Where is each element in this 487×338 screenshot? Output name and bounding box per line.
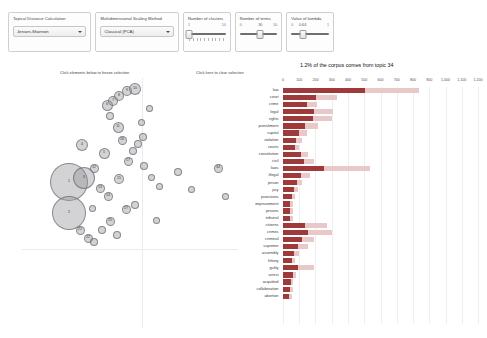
topic-bubble-40[interactable]: 40: [153, 217, 160, 224]
barchart-row[interactable]: punishment: [242, 122, 478, 129]
term-label[interactable]: supreme: [263, 243, 278, 248]
topic-bubble-19[interactable]: 19: [134, 140, 142, 148]
term-label[interactable]: punishment: [258, 123, 278, 128]
clear-selection-button[interactable]: Click here to clear selection: [196, 70, 244, 75]
topic-bubble-34[interactable]: 34: [214, 164, 223, 173]
topic-bubble-38[interactable]: 38: [138, 119, 145, 126]
distance-select[interactable]: Jensen-Shannon: [13, 26, 86, 37]
term-label[interactable]: constitution: [259, 151, 279, 156]
term-label[interactable]: felony: [268, 258, 278, 263]
topic-bubble-37[interactable]: 37: [89, 205, 96, 212]
term-label[interactable]: illegal: [269, 172, 279, 177]
topic-bubble-17[interactable]: 17: [124, 157, 133, 166]
topic-bubble-36[interactable]: 36: [106, 112, 114, 120]
scaling-select[interactable]: Classical (PCA): [100, 26, 173, 37]
barchart-row[interactable]: tribunal: [242, 215, 478, 222]
lambda-slider[interactable]: 0 1 0.64: [291, 29, 329, 40]
barchart-row[interactable]: constitution: [242, 151, 478, 158]
term-label[interactable]: legal: [270, 109, 278, 114]
barchart-row[interactable]: collaboration: [242, 286, 478, 293]
barchart-row[interactable]: illegal: [242, 172, 478, 179]
topic-bubble-14[interactable]: 14: [104, 192, 113, 201]
term-label[interactable]: violation: [264, 137, 278, 142]
clusters-slider[interactable]: 1 10: [188, 29, 226, 40]
term-label[interactable]: prison: [268, 180, 279, 185]
intertopic-distance-map[interactable]: 1234567891011121314151617181920212223242…: [22, 78, 238, 328]
topic-bubble-24[interactable]: 24: [98, 226, 106, 234]
topic-bubble-35[interactable]: 35: [222, 193, 229, 200]
barchart-row[interactable]: criminal: [242, 236, 478, 243]
barchart-row[interactable]: supreme: [242, 243, 478, 250]
topic-bubble-33[interactable]: 33: [188, 186, 195, 193]
topic-bubble-28[interactable]: 28: [131, 201, 139, 209]
barchart-row[interactable]: legal: [242, 108, 478, 115]
barchart-row[interactable]: acquitted: [242, 279, 478, 286]
term-label[interactable]: prisons: [266, 208, 279, 213]
barchart-row[interactable]: provisions: [242, 193, 478, 200]
term-label[interactable]: courts: [268, 144, 279, 149]
term-label[interactable]: citizens: [266, 222, 279, 227]
term-label[interactable]: rights: [269, 116, 279, 121]
topic-bubble-26[interactable]: 26: [113, 231, 121, 239]
term-label[interactable]: law: [273, 87, 279, 92]
barchart-row[interactable]: guilty: [242, 264, 478, 271]
topic-bubble-16[interactable]: 16: [118, 136, 127, 145]
term-label[interactable]: civil: [272, 158, 278, 163]
topic-bubble-5[interactable]: 5: [99, 148, 110, 159]
topic-bubble-15[interactable]: 15: [114, 174, 124, 184]
barchart-row[interactable]: abortion: [242, 293, 478, 300]
barchart-row[interactable]: jury: [242, 186, 478, 193]
topic-bubble-12[interactable]: 12: [90, 164, 99, 173]
term-label[interactable]: court: [270, 94, 279, 99]
lambda-handle[interactable]: [299, 30, 306, 39]
term-label[interactable]: assembly: [262, 250, 278, 255]
clusters-track[interactable]: [188, 33, 226, 35]
topic-bubble-31[interactable]: 31: [156, 183, 163, 190]
barchart-row[interactable]: crimes: [242, 229, 478, 236]
barchart-row[interactable]: court: [242, 94, 478, 101]
term-label[interactable]: imprisonment: [255, 201, 278, 206]
term-label[interactable]: capital: [267, 130, 278, 135]
barchart-row[interactable]: civil: [242, 158, 478, 165]
barchart-row[interactable]: prison: [242, 179, 478, 186]
barchart-row[interactable]: rights: [242, 115, 478, 122]
topic-bubble-39[interactable]: 39: [146, 105, 153, 112]
topic-bubble-10[interactable]: 10: [129, 83, 141, 95]
topic-bubble-20[interactable]: 20: [139, 133, 147, 141]
barchart-row[interactable]: imprisonment: [242, 201, 478, 208]
topic-bubble-23[interactable]: 23: [90, 238, 98, 246]
topic-bubble-11[interactable]: 11: [113, 122, 124, 133]
barchart-row[interactable]: laws: [242, 165, 478, 172]
term-label[interactable]: tribunal: [266, 215, 279, 220]
topic-bubble-2[interactable]: 2: [52, 196, 86, 230]
term-label[interactable]: guilty: [269, 265, 278, 270]
term-label[interactable]: laws: [271, 165, 279, 170]
topic-bubble-30[interactable]: 30: [148, 174, 155, 181]
topic-bubble-32[interactable]: 32: [174, 168, 182, 176]
barchart-row[interactable]: prisons: [242, 208, 478, 215]
terms-slider[interactable]: 0 50 30: [240, 29, 278, 40]
barchart-row[interactable]: citizens: [242, 222, 478, 229]
topic-bubble-18[interactable]: 18: [129, 147, 137, 155]
term-label[interactable]: crime: [269, 101, 279, 106]
term-label[interactable]: jury: [272, 187, 278, 192]
barchart-row[interactable]: violation: [242, 137, 478, 144]
lambda-track[interactable]: [291, 33, 329, 35]
topic-bubble-25[interactable]: 25: [106, 217, 115, 226]
barchart-row[interactable]: felony: [242, 257, 478, 264]
topic-bubble-4[interactable]: 4: [76, 139, 88, 151]
term-label[interactable]: arrest: [269, 272, 279, 277]
topic-bubble-27[interactable]: 27: [122, 205, 131, 214]
term-label[interactable]: abortion: [264, 293, 278, 298]
topic-bubble-13[interactable]: 13: [96, 184, 105, 193]
term-label[interactable]: collaboration: [256, 286, 278, 291]
term-label[interactable]: crimes: [267, 229, 278, 234]
terms-handle[interactable]: [257, 30, 264, 39]
topic-bubble-29[interactable]: 29: [140, 162, 148, 170]
term-label[interactable]: provisions: [261, 194, 279, 199]
barchart-row[interactable]: crime: [242, 101, 478, 108]
barchart-row[interactable]: assembly: [242, 250, 478, 257]
term-label[interactable]: criminal: [265, 236, 278, 241]
barchart-row[interactable]: capital: [242, 130, 478, 137]
term-label[interactable]: acquitted: [263, 279, 279, 284]
